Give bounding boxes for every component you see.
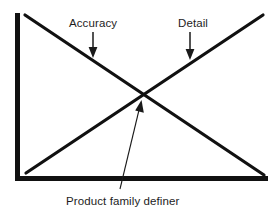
product-family-definer-caption: Product family definer	[66, 195, 179, 207]
accuracy-callout-arrow	[89, 32, 98, 58]
diagram-canvas: Accuracy Detail Product family definer	[0, 0, 277, 220]
accuracy-detail-chart: Accuracy Detail Product family definer	[0, 0, 277, 220]
accuracy-label: Accuracy	[69, 17, 117, 29]
detail-callout-arrow	[186, 32, 195, 60]
detail-label: Detail	[178, 17, 208, 29]
product-family-definer-callout-arrow	[120, 100, 144, 189]
